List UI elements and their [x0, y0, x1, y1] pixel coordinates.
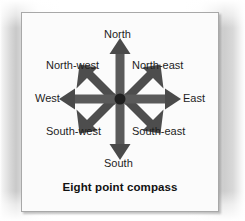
compass-label-north-east: North-east: [132, 60, 183, 71]
compass-diagram-screenshot: North North-east East South-east South S…: [0, 0, 245, 221]
arrow-north: [110, 38, 131, 101]
compass-label-south-east: South-east: [132, 126, 185, 137]
compass-label-north-west: North-west: [46, 60, 99, 71]
compass-label-east: East: [183, 93, 205, 104]
compass-label-west: West: [35, 93, 60, 104]
figure-panel: North North-east East South-east South S…: [21, 12, 219, 212]
compass-rose: North North-east East South-east South S…: [22, 13, 218, 211]
figure-caption: Eight point compass: [22, 181, 218, 193]
compass-center-hub: [115, 94, 126, 105]
arrow-south: [110, 97, 131, 160]
compass-label-north: North: [104, 29, 131, 40]
compass-label-south: South: [104, 158, 133, 169]
compass-label-south-west: South-west: [46, 126, 101, 137]
